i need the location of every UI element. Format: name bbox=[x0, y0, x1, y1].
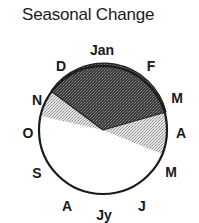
month-label-aug: A bbox=[62, 198, 72, 214]
month-label-oct: O bbox=[23, 125, 34, 141]
month-label-sep: S bbox=[32, 165, 41, 181]
month-label-nov: N bbox=[32, 92, 42, 108]
seasonal-dial: Jan F M A M J Jy A S O N D bbox=[0, 0, 199, 223]
month-label-mar: M bbox=[171, 90, 183, 106]
month-label-feb: F bbox=[147, 58, 156, 74]
month-label-dec: D bbox=[56, 58, 66, 74]
month-label-jan: Jan bbox=[90, 42, 114, 58]
month-label-apr: A bbox=[176, 125, 186, 141]
month-label-jun: J bbox=[138, 198, 146, 214]
month-label-may: M bbox=[165, 164, 177, 180]
month-label-jul: Jy bbox=[96, 207, 112, 223]
